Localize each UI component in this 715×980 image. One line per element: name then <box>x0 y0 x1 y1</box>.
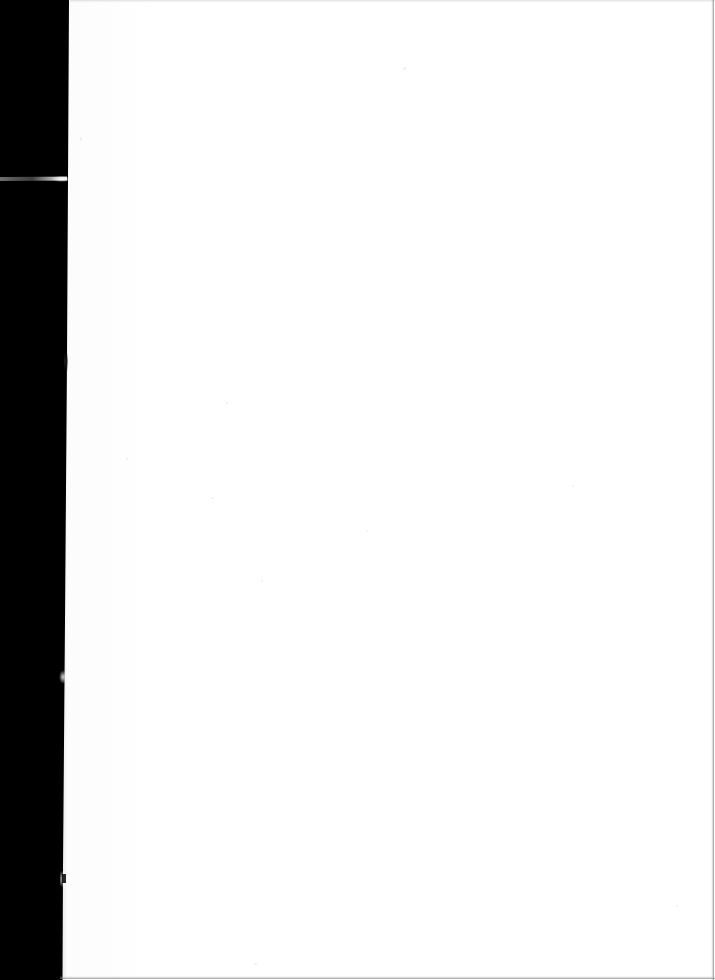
speckle <box>126 457 128 460</box>
speckle <box>211 497 214 499</box>
paper-sheet <box>0 0 715 980</box>
speckle <box>226 402 228 404</box>
speckle <box>254 963 257 965</box>
speckle <box>366 530 368 532</box>
paper-tone-gradient <box>62 0 152 980</box>
speckle <box>403 67 406 70</box>
speckle <box>676 905 678 907</box>
speckle <box>261 580 263 582</box>
speckle <box>80 137 82 141</box>
speckle <box>572 485 574 487</box>
scanned-page <box>0 0 715 980</box>
scanner-gutter-band <box>0 0 72 980</box>
